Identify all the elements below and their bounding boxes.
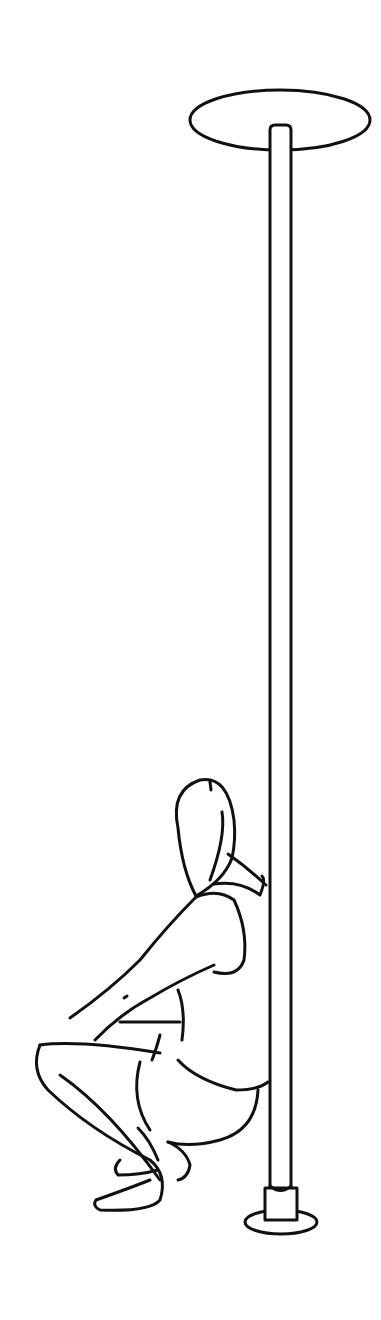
pole-squat-drawing [0, 0, 381, 1320]
floor-base [245, 1186, 317, 1234]
squatting-figure [36, 780, 268, 1211]
illustration-canvas: Line drawing: squat at base of pole [0, 0, 381, 1320]
pole [269, 125, 291, 1190]
